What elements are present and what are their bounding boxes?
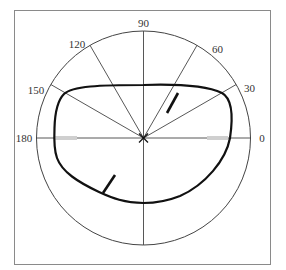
- ray-60: [144, 45, 198, 138]
- label-180: 180: [16, 132, 33, 144]
- tick-upper-right: [167, 93, 178, 113]
- label-120: 120: [69, 38, 86, 50]
- polar-diagram: 0 30 60 90 120 150 180: [0, 0, 286, 270]
- label-30: 30: [244, 82, 256, 94]
- label-150: 150: [28, 84, 45, 96]
- label-90: 90: [138, 17, 150, 29]
- label-60: 60: [212, 43, 224, 55]
- label-0: 0: [259, 132, 265, 144]
- ray-120: [90, 45, 144, 138]
- tick-lower-left: [103, 175, 115, 193]
